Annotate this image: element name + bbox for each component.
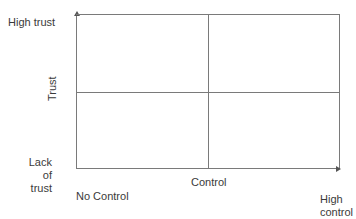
x-axis-high-label-line1: High	[320, 193, 353, 206]
cropped-caption-remnant	[0, 0, 170, 3]
y-axis-low-label-line2: trust	[18, 182, 52, 195]
matrix-vertical-divider	[208, 14, 209, 168]
x-axis-line	[76, 168, 340, 169]
y-axis-low-label-line1: Lack of	[18, 156, 52, 182]
y-axis-high-label: High trust	[8, 16, 55, 29]
x-axis-low-label: No Control	[76, 190, 129, 203]
y-axis-title: Trust	[46, 76, 59, 101]
matrix-right-border	[339, 14, 340, 168]
y-axis-low-label: Lack of trust	[18, 156, 52, 195]
x-axis-title: Control	[191, 176, 226, 189]
x-axis-high-label: High control	[320, 193, 353, 219]
x-axis-high-label-line2: control	[320, 206, 353, 219]
